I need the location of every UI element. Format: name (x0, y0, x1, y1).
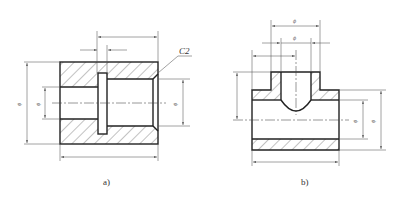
figure-b: ϕ ϕ ϕ ϕ b) (233, 18, 386, 187)
dim-text-boss-outer: ϕ (293, 18, 296, 24)
figure-a: ϕ ϕ ϕ C2 a) (16, 31, 192, 187)
dim-text-boss-inner: ϕ (293, 35, 296, 41)
figure-b-outline (252, 72, 339, 150)
figure-b-caption: b) (301, 177, 309, 187)
chamfer-label: C2 (179, 46, 190, 56)
dim-text-right-bore: ϕ (172, 103, 178, 106)
figure-a-caption: a) (103, 177, 110, 187)
dim-text-main-bore: ϕ (352, 120, 358, 123)
dim-text-main-outer: ϕ (370, 120, 376, 123)
chamfer-leader (158, 56, 178, 73)
dim-text-outer-dia: ϕ (16, 103, 22, 106)
drawing-svg: ϕ ϕ ϕ C2 a) (0, 0, 397, 198)
dim-text-left-bore: ϕ (35, 103, 41, 106)
technical-drawing-canvas: ϕ ϕ ϕ C2 a) (0, 0, 397, 198)
